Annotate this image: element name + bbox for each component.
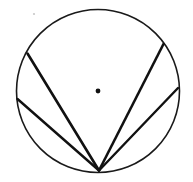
- center-point-dot: [96, 89, 101, 94]
- geometry-figure: [0, 0, 193, 182]
- scan-speck-artifact: [33, 13, 35, 15]
